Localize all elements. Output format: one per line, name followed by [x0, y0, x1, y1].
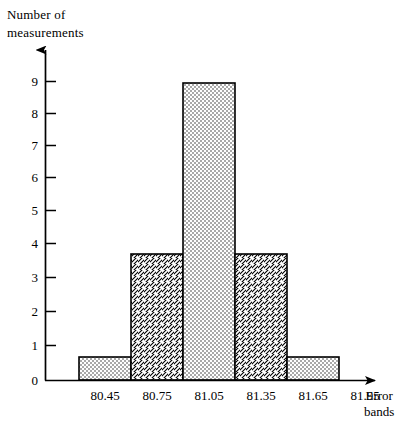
y-tick-label-4: 4 [16, 237, 38, 250]
y-tick-label-6: 6 [16, 171, 38, 184]
x-tick-label-81.65: 81.65 [283, 389, 343, 402]
x-tick-label-81.35: 81.35 [231, 389, 291, 402]
y-tick-label-3: 3 [16, 271, 38, 284]
y-tick-label-2: 2 [16, 305, 38, 318]
plot-area: 0 1 2 3 4 5 6 7 8 9 80.45 80.75 81.05 81… [0, 0, 412, 438]
y-tick-label-0: 0 [16, 374, 38, 387]
plot-svg [0, 0, 412, 438]
y-tick-label-9: 9 [16, 75, 38, 88]
bar-81.35 [235, 254, 287, 380]
bar-80.45 [79, 357, 131, 380]
x-tick-label-81.05: 81.05 [179, 389, 239, 402]
bar-81.05 [183, 83, 235, 380]
y-axis [46, 50, 57, 381]
x-tick-label-81.95: 81.95 [335, 389, 395, 402]
bars-group [79, 83, 339, 380]
y-tick-label-1: 1 [16, 339, 38, 352]
y-tick-label-7: 7 [16, 139, 38, 152]
bar-80.75 [131, 254, 183, 380]
histogram-chart: Number of measurements Error bands [0, 0, 412, 438]
y-tick-label-5: 5 [16, 204, 38, 217]
y-tick-label-8: 8 [16, 107, 38, 120]
bar-81.65 [287, 357, 339, 380]
x-tick-label-80.45: 80.45 [75, 389, 135, 402]
y-tick-marks [46, 82, 57, 346]
x-tick-label-80.75: 80.75 [127, 389, 187, 402]
